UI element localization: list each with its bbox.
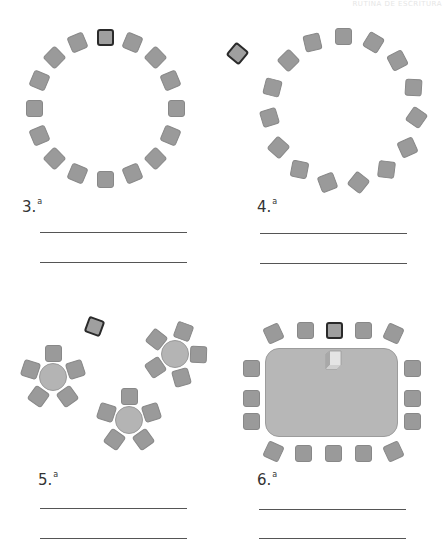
seat[interactable] (65, 359, 86, 380)
seat[interactable] (335, 28, 352, 45)
exercise-5-label: 5.a (38, 471, 58, 489)
seat[interactable] (243, 360, 260, 377)
exercise-6-answer-line-1[interactable] (259, 509, 406, 510)
seat[interactable] (121, 162, 143, 184)
seat[interactable] (262, 77, 283, 98)
seat[interactable] (404, 360, 421, 377)
seat[interactable] (262, 322, 285, 345)
seat[interactable] (297, 322, 314, 339)
exercise-3-answer-line-1[interactable] (40, 232, 187, 233)
exercise-5-answer-line-1[interactable] (40, 508, 187, 509)
seat[interactable] (45, 345, 62, 362)
seat[interactable] (121, 31, 143, 53)
seat[interactable] (396, 136, 418, 158)
page-header: RUTINA DE ESCRITURA (352, 0, 442, 8)
seat[interactable] (303, 32, 323, 52)
seat[interactable] (290, 160, 310, 180)
seat[interactable] (325, 445, 342, 462)
seat[interactable] (43, 146, 67, 170)
seat[interactable] (295, 445, 312, 462)
seat[interactable] (346, 170, 370, 194)
highlighted-seat-outside[interactable] (225, 41, 249, 65)
seat[interactable] (168, 100, 185, 117)
seat[interactable] (387, 49, 410, 72)
exercise-6-answer-line-2[interactable] (259, 538, 406, 539)
seat[interactable] (262, 440, 285, 463)
round-table (115, 406, 143, 434)
exercise-3-label: 3.a (22, 198, 42, 216)
highlighted-seat[interactable] (97, 29, 114, 46)
seat[interactable] (143, 146, 167, 170)
exercise-4-answer-line-1[interactable] (260, 233, 407, 234)
seat[interactable] (382, 440, 405, 463)
seat[interactable] (361, 31, 384, 54)
seat[interactable] (355, 445, 372, 462)
exercise-6-label: 6.a (257, 471, 277, 489)
seat[interactable] (67, 31, 89, 53)
seat[interactable] (67, 162, 89, 184)
exercise-5-answer-line-2[interactable] (40, 538, 187, 539)
seat[interactable] (317, 171, 339, 193)
exercise-4-label: 4.a (257, 198, 277, 216)
seat[interactable] (97, 171, 114, 188)
seat[interactable] (19, 359, 40, 380)
seat[interactable] (405, 106, 429, 130)
exercise-3-answer-line-2[interactable] (40, 262, 187, 263)
seat[interactable] (267, 135, 291, 159)
seat[interactable] (159, 70, 181, 92)
seat[interactable] (121, 388, 138, 405)
round-table (39, 363, 67, 391)
seat[interactable] (404, 413, 421, 430)
seat[interactable] (143, 46, 167, 70)
seat[interactable] (243, 413, 260, 430)
seat[interactable] (28, 124, 50, 146)
seat[interactable] (404, 78, 422, 96)
highlighted-seat[interactable] (326, 322, 343, 339)
seat[interactable] (276, 48, 300, 72)
seat[interactable] (28, 70, 50, 92)
seat[interactable] (243, 390, 260, 407)
seat[interactable] (95, 402, 116, 423)
highlighted-seat-outside[interactable] (83, 315, 105, 337)
seat[interactable] (171, 367, 192, 388)
round-table (161, 340, 189, 368)
seat[interactable] (43, 46, 67, 70)
seat[interactable] (141, 402, 162, 423)
seat[interactable] (355, 322, 372, 339)
exercise-4-answer-line-2[interactable] (260, 263, 407, 264)
seat[interactable] (190, 346, 208, 364)
seat[interactable] (259, 107, 280, 128)
box-icon (322, 350, 342, 370)
seat[interactable] (404, 390, 421, 407)
seat[interactable] (159, 124, 181, 146)
seat[interactable] (377, 160, 396, 179)
seat[interactable] (26, 100, 43, 117)
seat[interactable] (382, 322, 405, 345)
